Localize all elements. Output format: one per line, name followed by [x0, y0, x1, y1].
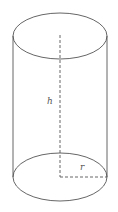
cylinder-diagram: h r [0, 0, 118, 212]
height-label: h [47, 96, 53, 106]
radius-label: r [80, 162, 85, 172]
